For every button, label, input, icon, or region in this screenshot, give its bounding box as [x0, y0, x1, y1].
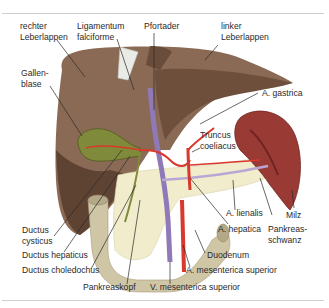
label-line: Pankreas- [268, 224, 307, 235]
label-line: Ductus choledochus [22, 265, 99, 276]
label-line: A. mesenterica superior [186, 265, 277, 276]
label-duodenum: Duodenum [207, 250, 249, 261]
duodenum-opening-left [88, 195, 108, 205]
label-line: A. lienalis [226, 208, 263, 219]
label-line: Pfortader [144, 21, 179, 32]
label-line: A. gastrica [262, 88, 303, 99]
label-pfortader: Pfortader [144, 21, 179, 32]
label-line: cysticus [22, 236, 53, 247]
label-gallenblase: Gallen- blase [21, 68, 49, 89]
label-truncus-coeliacus: Truncus coeliacus [200, 130, 236, 151]
label-line: Ductus [22, 225, 53, 236]
label-a-gastrica: A. gastrica [262, 88, 303, 99]
label-line: Truncus [200, 130, 236, 141]
label-a-lienalis: A. lienalis [226, 208, 263, 219]
label-v-mesenterica-superior: V. mesenterica superior [150, 282, 240, 293]
label-line: Pankreaskopf [83, 282, 136, 293]
label-line: Milz [286, 210, 301, 221]
label-ductus-choledochus: Ductus choledochus [22, 265, 99, 276]
label-line: rechter [20, 21, 68, 32]
label-line: schwanz [268, 235, 307, 246]
label-line: A. hepatica [218, 224, 261, 235]
superior-mesenteric-artery [182, 200, 184, 272]
label-a-mesenterica-superior: A. mesenterica superior [186, 265, 277, 276]
label-line: Ductus hepaticus [22, 250, 88, 261]
label-line: Gallen- [21, 68, 49, 79]
label-ductus-hepaticus: Ductus hepaticus [22, 250, 88, 261]
label-line: Duodenum [207, 250, 249, 261]
celiac-trunk [188, 148, 190, 190]
label-line: Leberlappen [20, 32, 68, 43]
label-line: falciforme [77, 32, 124, 43]
label-line: linker [221, 21, 269, 32]
label-line: Ligamentum [77, 21, 124, 32]
label-line: blase [21, 79, 49, 90]
label-line: V. mesenterica superior [150, 282, 240, 293]
label-line: Leberlappen [221, 32, 269, 43]
label-line: coeliacus [200, 141, 236, 152]
label-pankreasschwanz: Pankreas- schwanz [268, 224, 307, 245]
label-milz: Milz [286, 210, 301, 221]
label-pankreaskopf: Pankreaskopf [83, 282, 136, 293]
label-ligamentum-falciforme: Ligamentum falciforme [77, 21, 124, 42]
label-linker-leberlappen: linker Leberlappen [221, 21, 269, 42]
label-rechter-leberlappen: rechter Leberlappen [20, 21, 68, 42]
anatomy-illustration [0, 0, 329, 308]
label-a-hepatica: A. hepatica [218, 224, 261, 235]
label-ductus-cysticus: Ductus cysticus [22, 225, 53, 246]
